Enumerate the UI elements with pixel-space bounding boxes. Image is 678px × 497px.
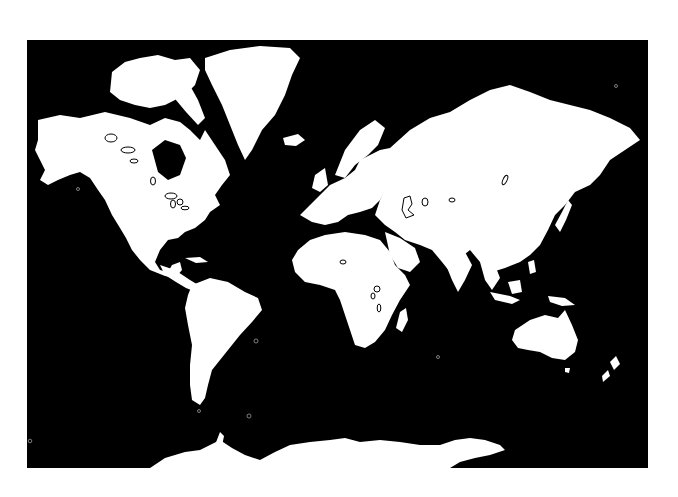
lake-victoria bbox=[374, 286, 380, 292]
tasmania bbox=[565, 368, 570, 373]
island-marker bbox=[437, 356, 440, 359]
lake-superior bbox=[165, 193, 177, 199]
philippines bbox=[528, 260, 536, 274]
lake-huron bbox=[177, 199, 183, 205]
india bbox=[445, 250, 472, 292]
new-guinea bbox=[548, 296, 575, 306]
island-marker bbox=[28, 439, 32, 443]
new-zealand-south bbox=[602, 370, 610, 382]
lake-winnipeg bbox=[151, 177, 156, 185]
lake-balkhash bbox=[449, 198, 455, 202]
australia bbox=[512, 310, 578, 360]
island-marker bbox=[77, 188, 80, 191]
great-bear-lake bbox=[105, 134, 117, 142]
north-america bbox=[35, 112, 230, 278]
new-zealand bbox=[610, 356, 620, 370]
lake-athabasca bbox=[130, 159, 138, 163]
madagascar bbox=[396, 308, 408, 332]
baffin-island bbox=[170, 80, 205, 125]
world-map-svg bbox=[27, 40, 648, 468]
antarctica bbox=[150, 438, 505, 468]
lake-michigan bbox=[171, 200, 176, 208]
lake-tanganyika bbox=[371, 293, 375, 299]
island-marker bbox=[615, 85, 618, 88]
lake-chad bbox=[340, 260, 346, 264]
borneo bbox=[508, 280, 522, 294]
island-marker bbox=[247, 414, 251, 418]
british-isles bbox=[312, 168, 328, 192]
great-slave-lake bbox=[121, 147, 135, 153]
lake-erie bbox=[181, 206, 189, 210]
indonesia bbox=[490, 292, 520, 304]
lake-nyasa bbox=[377, 304, 381, 312]
world-map bbox=[27, 40, 648, 468]
aral-sea bbox=[422, 198, 428, 206]
island-marker bbox=[254, 339, 258, 343]
south-america bbox=[185, 278, 262, 405]
iceland bbox=[283, 134, 305, 146]
island-marker bbox=[198, 410, 201, 413]
caribbean bbox=[185, 257, 208, 263]
